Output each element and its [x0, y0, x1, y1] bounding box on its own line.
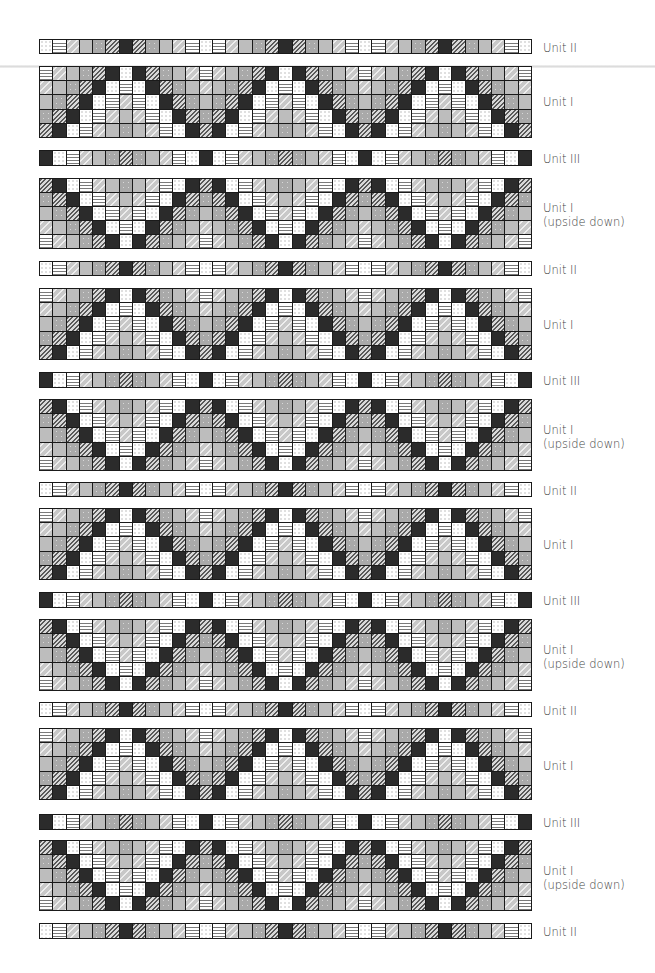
pattern-cell-light-gray-wave	[466, 124, 478, 137]
pattern-cell-white-dotted	[40, 703, 52, 716]
pattern-cell-plain-gray	[479, 40, 491, 53]
pattern-cell-light-gray-wave	[399, 151, 411, 165]
pattern-cell-black	[372, 346, 384, 359]
pattern-cell-black	[226, 855, 238, 868]
pattern-cell-dark-diagonal-hatch	[253, 67, 265, 80]
pattern-cell-white-horizontal-stripes	[160, 124, 172, 137]
pattern-cell-gray-flecked	[213, 95, 225, 108]
pattern-cell-white-dotted	[173, 566, 185, 579]
pattern-cell-light-gray-wave	[226, 483, 238, 496]
pattern-cell-light-gray-wave	[466, 620, 478, 633]
pattern-cell-dark-diagonal-hatch	[200, 346, 212, 359]
pattern-cell-gray-flecked	[359, 332, 371, 345]
pattern-cell-white-horizontal-stripes	[120, 883, 132, 896]
pattern-cell-white-horizontal-stripes	[519, 235, 531, 248]
pattern-cell-gray-flecked	[452, 815, 464, 829]
pattern-cell-white-dotted	[306, 537, 318, 550]
pattern-cell-plain-gray	[306, 815, 318, 829]
pattern-cell-dark-diagonal-hatch	[266, 40, 278, 53]
pattern-cell-light-gray-wave	[53, 235, 65, 248]
pattern-cell-gray-flecked	[173, 883, 185, 896]
pattern-cell-dark-diagonal-hatch	[120, 151, 132, 165]
pattern-cell-white-horizontal-stripes	[452, 428, 464, 441]
pattern-cell-white-horizontal-stripes	[53, 703, 65, 716]
pattern-cell-light-gray-wave	[333, 703, 345, 716]
pattern-cell-white-horizontal-stripes	[253, 193, 265, 206]
pattern-cell-white-horizontal-stripes	[452, 537, 464, 550]
pattern-cell-light-gray-wave	[439, 757, 451, 770]
pattern-cell-plain-gray	[386, 235, 398, 248]
pattern-cell-dark-diagonal-hatch	[93, 729, 105, 742]
pattern-cell-plain-gray	[173, 289, 185, 302]
pattern-cell-dark-diagonal-hatch	[226, 757, 238, 770]
pattern-cell-black	[67, 634, 79, 647]
pattern-cell-gray-flecked	[519, 414, 531, 427]
pattern-cell-black	[253, 221, 265, 234]
pattern-cell-gray-flecked	[80, 235, 92, 248]
pattern-cell-white-horizontal-stripes	[266, 757, 278, 770]
pattern-cell-light-gray-wave	[386, 924, 398, 938]
pattern-cell-black	[239, 869, 251, 882]
pattern-cell-white-dotted	[253, 428, 265, 441]
pattern-cell-plain-gray	[372, 221, 384, 234]
pattern-cell-white-dotted	[426, 743, 438, 756]
pattern-cell-white-dotted	[80, 110, 92, 123]
pattern-cell-white-dotted	[293, 81, 305, 94]
pattern-cell-white-dotted	[293, 443, 305, 456]
pattern-cell-white-horizontal-stripes	[133, 95, 145, 108]
pattern-cell-black	[160, 537, 172, 550]
pattern-cell-dark-diagonal-hatch	[213, 414, 225, 427]
pattern-cell-light-gray-wave	[266, 193, 278, 206]
pattern-cell-light-gray-wave	[213, 289, 225, 302]
pattern-cell-black	[519, 815, 531, 829]
pattern-cell-gray-flecked	[399, 677, 411, 690]
pattern-cell-dark-diagonal-hatch	[253, 509, 265, 522]
pattern-cell-dark-diagonal-hatch	[479, 743, 491, 756]
pattern-cell-dark-diagonal-hatch	[53, 414, 65, 427]
pattern-cell-white-dotted	[146, 95, 158, 108]
pattern-cell-dark-diagonal-hatch	[492, 95, 504, 108]
pattern-cell-white-dotted	[146, 537, 158, 550]
pattern-cell-black	[266, 729, 278, 742]
pattern-cell-white-horizontal-stripes	[67, 151, 79, 165]
pattern-cell-gray-flecked	[439, 620, 451, 633]
pattern-cell-white-dotted	[80, 772, 92, 785]
pattern-cell-white-horizontal-stripes	[200, 677, 212, 690]
pattern-cell-white-dotted	[239, 332, 251, 345]
pattern-cell-dark-diagonal-hatch	[253, 235, 265, 248]
pattern-cell-white-dotted	[133, 883, 145, 896]
pattern-cell-white-dotted	[399, 855, 411, 868]
pattern-cell-white-dotted	[213, 373, 225, 387]
pattern-cell-light-gray-wave	[505, 67, 517, 80]
pattern-cell-black	[346, 400, 358, 413]
pattern-cell-white-horizontal-stripes	[452, 317, 464, 330]
pattern-cell-black	[80, 428, 92, 441]
pattern-cell-white-dotted	[319, 193, 331, 206]
pattern-cell-white-horizontal-stripes	[279, 743, 291, 756]
pattern-cell-gray-flecked	[239, 509, 251, 522]
pattern-cell-white-horizontal-stripes	[80, 620, 92, 633]
pattern-cell-light-gray-wave	[279, 428, 291, 441]
pattern-cell-white-dotted	[319, 634, 331, 647]
pattern-cell-plain-gray	[466, 151, 478, 165]
pattern-cell-plain-gray	[452, 841, 464, 854]
pattern-cell-light-gray-wave	[93, 786, 105, 799]
pattern-cell-light-gray-wave	[479, 373, 491, 387]
pattern-cell-plain-gray	[106, 786, 118, 799]
pattern-cell-plain-gray	[53, 663, 65, 676]
pattern-cell-light-gray-wave	[106, 855, 118, 868]
pattern-cell-gray-flecked	[93, 703, 105, 716]
pattern-cell-black	[479, 537, 491, 550]
pattern-cell-light-gray-wave	[346, 729, 358, 742]
pattern-cell-dark-diagonal-hatch	[359, 346, 371, 359]
pattern-cell-dark-diagonal-hatch	[173, 95, 185, 108]
pattern-cell-white-dotted	[106, 883, 118, 896]
pattern-cell-gray-flecked	[426, 373, 438, 387]
pattern-cell-white-horizontal-stripes	[412, 193, 424, 206]
pattern-cell-white-horizontal-stripes	[399, 400, 411, 413]
pattern-cell-gray-flecked	[67, 303, 79, 316]
pattern-cell-plain-gray	[372, 81, 384, 94]
pattern-cell-black	[492, 634, 504, 647]
pattern-cell-light-gray-wave	[253, 620, 265, 633]
pattern-cell-white-horizontal-stripes	[146, 332, 158, 345]
